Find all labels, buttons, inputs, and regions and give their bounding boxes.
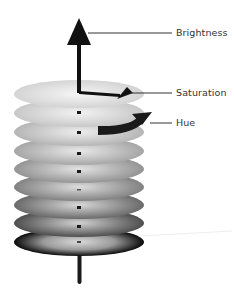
- hue-label: Hue: [176, 117, 195, 128]
- brightness-label: Brightness: [176, 27, 228, 38]
- brightness-discs: [14, 80, 144, 256]
- saturation-label: Saturation: [176, 87, 227, 98]
- hsb-diagram: [0, 0, 234, 300]
- faint-guide-line: [140, 231, 232, 236]
